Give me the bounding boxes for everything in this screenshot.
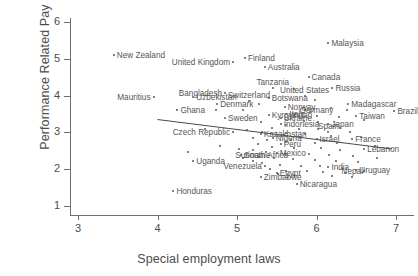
- scatter-chart: Performance Related Pay Special employme…: [0, 0, 418, 276]
- data-point-label: Denmark: [220, 99, 253, 108]
- data-point-label: Madagascar: [351, 99, 396, 108]
- data-point: [352, 155, 354, 157]
- data-point: [192, 160, 194, 162]
- data-point: [308, 76, 310, 78]
- data-point: [347, 103, 349, 105]
- data-point-label: Nepal: [342, 167, 363, 176]
- data-point-label: Lebanon: [367, 144, 399, 153]
- data-point: [264, 66, 266, 68]
- data-point-label: Russia: [335, 84, 360, 93]
- data-point: [113, 54, 115, 56]
- data-point: [319, 165, 321, 167]
- data-point: [271, 127, 273, 129]
- data-point-label: Taiwan: [359, 111, 385, 120]
- y-tick-label: 3: [36, 125, 60, 137]
- x-tick-label: 5: [225, 222, 249, 234]
- data-point: [176, 109, 178, 111]
- data-point: [260, 121, 262, 123]
- data-point-label: Australia: [268, 62, 300, 71]
- data-point: [335, 160, 337, 162]
- data-point-label: Honduras: [176, 186, 212, 195]
- data-point: [280, 143, 282, 145]
- data-point: [363, 148, 365, 150]
- y-tick-label: 1: [36, 199, 60, 211]
- data-point: [355, 115, 357, 117]
- data-point: [216, 103, 218, 105]
- data-point: [331, 87, 333, 89]
- data-point: [269, 168, 271, 170]
- data-point: [357, 161, 359, 163]
- x-tick-mark: [237, 215, 238, 220]
- data-point: [232, 61, 234, 63]
- x-tick-mark: [396, 215, 397, 220]
- data-point: [224, 117, 226, 119]
- plot-area: MalaysiaNew ZealandFinlandAustraliaUnite…: [70, 18, 414, 214]
- data-point: [153, 96, 155, 98]
- data-point: [314, 99, 316, 101]
- data-point: [257, 143, 259, 145]
- data-point: [187, 151, 189, 153]
- data-point: [242, 109, 244, 111]
- data-point-label: Brazil: [397, 107, 417, 116]
- data-point-label: Mauritius: [117, 93, 150, 102]
- data-point-label: Spain: [318, 122, 339, 131]
- data-point: [327, 131, 329, 133]
- data-point-label: Malaysia: [331, 39, 363, 48]
- data-point: [376, 157, 378, 159]
- data-point: [266, 139, 268, 141]
- data-point: [260, 176, 262, 178]
- data-point-label: Czech Republic: [173, 128, 230, 137]
- data-point: [215, 109, 217, 111]
- x-axis-title: Special employment laws: [0, 252, 418, 266]
- data-point-label: Finland: [248, 54, 275, 63]
- x-tick-mark: [317, 215, 318, 220]
- data-point: [244, 57, 246, 59]
- data-point-label: Uganda: [196, 157, 225, 166]
- x-tick-label: 3: [66, 222, 90, 234]
- y-tick-label: 5: [36, 52, 60, 64]
- data-point: [308, 153, 310, 155]
- data-point: [246, 129, 248, 131]
- data-point: [192, 96, 194, 98]
- x-tick-mark: [158, 215, 159, 220]
- data-point: [327, 166, 329, 168]
- data-point: [268, 114, 270, 116]
- data-point: [351, 176, 353, 178]
- data-point: [238, 148, 240, 150]
- data-point: [351, 138, 353, 140]
- data-point: [296, 183, 298, 185]
- data-point: [172, 190, 174, 192]
- data-point: [232, 131, 234, 133]
- data-point: [393, 110, 395, 112]
- data-point: [346, 109, 348, 111]
- data-point: [338, 116, 340, 118]
- data-point: [314, 159, 316, 161]
- data-point: [316, 115, 318, 117]
- data-point: [264, 165, 266, 167]
- data-point: [280, 123, 282, 125]
- data-point-label: Uruguay: [359, 165, 390, 174]
- data-point-label: Indonesia: [284, 120, 320, 129]
- data-point-label: Zimbabwe: [264, 173, 302, 182]
- y-tick-label: 6: [36, 15, 60, 27]
- data-point: [320, 147, 322, 149]
- x-tick-label: 6: [305, 222, 329, 234]
- data-point: [328, 154, 330, 156]
- data-point-label: Suriname: [235, 151, 270, 160]
- data-point-label: New Zealand: [117, 51, 165, 60]
- data-point-label: Mexico: [280, 148, 306, 157]
- data-point-label: Canada: [312, 73, 341, 82]
- data-point: [339, 149, 341, 151]
- data-point: [349, 131, 351, 133]
- data-point: [284, 106, 286, 108]
- data-point-label: Sweden: [228, 113, 258, 122]
- data-point: [260, 133, 262, 135]
- data-point-label: France: [355, 135, 380, 144]
- x-axis-line: [70, 215, 414, 216]
- data-point: [271, 146, 273, 148]
- data-point: [258, 103, 260, 105]
- data-point: [306, 170, 308, 172]
- data-point: [292, 158, 294, 160]
- data-point: [272, 137, 274, 139]
- data-point: [272, 87, 274, 89]
